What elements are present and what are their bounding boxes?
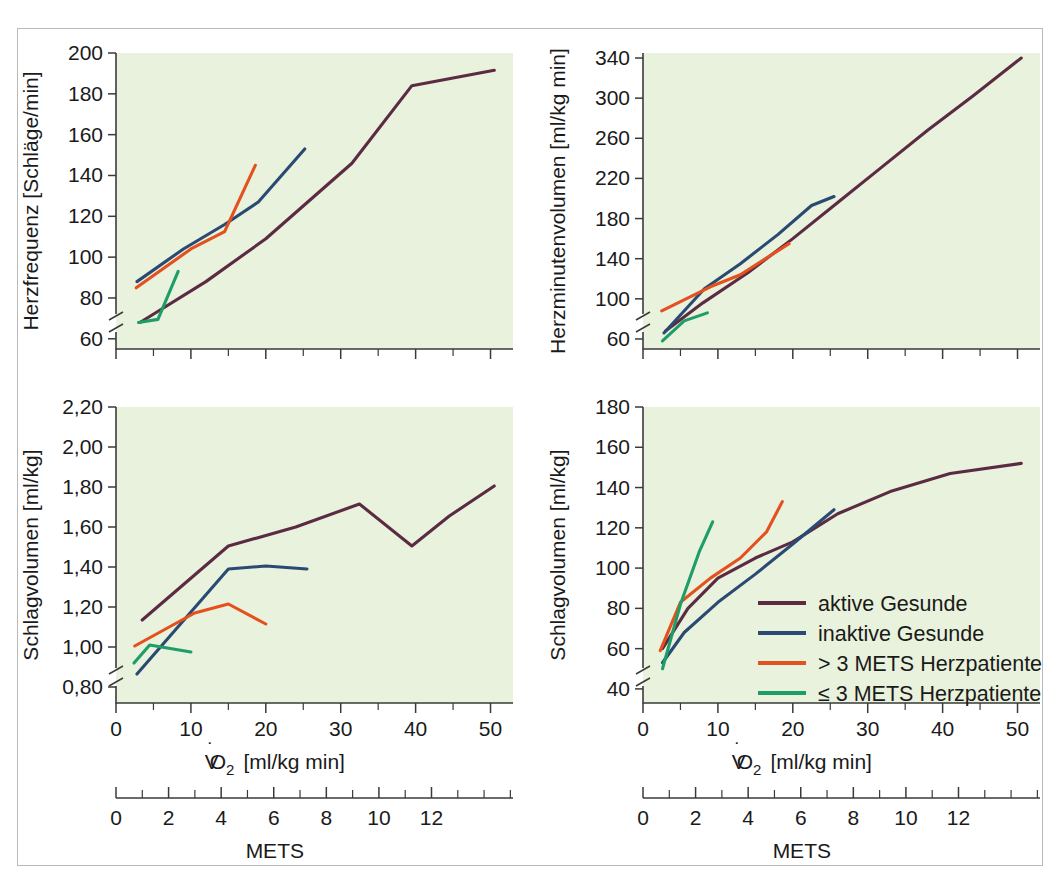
panel-top-right: 60100140180220260300340Herzminutenvolume…: [546, 46, 1040, 359]
y-tick-label: 300: [595, 86, 630, 109]
x-axis-group: 01020304050V̇O2[ml/kg min]024681012METS: [110, 717, 513, 862]
x-tick-label: 10: [706, 717, 729, 740]
legend-label: ≤ 3 METS Herzpatienten: [818, 682, 1042, 706]
y-tick-label: 1,40: [62, 555, 103, 578]
mets-axis-title: METS: [773, 839, 831, 862]
y-tick-label: 180: [595, 207, 630, 230]
y-tick-label: 1,20: [62, 595, 103, 618]
mets-tick-label: 2: [163, 806, 175, 829]
panel-top-left: 6080100120140160180200Herzfrequenz [Schl…: [19, 41, 513, 359]
y-tick-label: 80: [80, 286, 103, 309]
plot-background: [116, 407, 513, 703]
mets-tick-label: 10: [367, 806, 390, 829]
y-tick-label: 60: [80, 327, 103, 350]
y-tick-label: 140: [595, 476, 630, 499]
x-tick-label: 30: [856, 717, 879, 740]
y-tick-label: 1,00: [62, 635, 103, 658]
x-tick-label: 30: [329, 717, 352, 740]
x-tick-label: 40: [931, 717, 954, 740]
mets-tick-label: 6: [795, 806, 807, 829]
y-tick-label: 120: [595, 516, 630, 539]
y-tick-label: 220: [595, 166, 630, 189]
y-tick-label: 180: [595, 395, 630, 418]
y-tick-label: 1,80: [62, 475, 103, 498]
y-tick-label: 2,00: [62, 435, 103, 458]
figure-frame: 6080100120140160180200Herzfrequenz [Schl…: [17, 28, 1043, 866]
x-axis-title: V̇O2[ml/kg min]: [205, 742, 345, 778]
legend-label: aktive Gesunde: [818, 592, 967, 616]
mets-tick-label: 6: [268, 806, 280, 829]
mets-tick-label: 8: [320, 806, 332, 829]
x-tick-label: 50: [479, 717, 502, 740]
mets-tick-label: 2: [690, 806, 702, 829]
mets-tick-label: 8: [847, 806, 859, 829]
legend-label: inaktive Gesunde: [818, 622, 984, 646]
y-tick-label: 100: [595, 556, 630, 579]
mets-tick-label: 4: [742, 806, 754, 829]
y-tick-label: 40: [607, 677, 630, 700]
y-tick-label: 160: [68, 123, 103, 146]
y-tick-label: 120: [68, 204, 103, 227]
y-tick-label: 340: [595, 46, 630, 69]
x-tick-label: 10: [179, 717, 202, 740]
mets-tick-label: 12: [420, 806, 443, 829]
x-axis-group: 01020304050V̇O2[ml/kg min]024681012METS: [637, 717, 1040, 862]
x-tick-label: 0: [637, 717, 649, 740]
y-axis-title: Herzminutenvolumen [ml/kg min]: [546, 48, 569, 354]
y-tick-label: 180: [68, 82, 103, 105]
x-tick-label: 40: [404, 717, 427, 740]
plot-background: [116, 53, 513, 349]
y-tick-label: 260: [595, 126, 630, 149]
y-tick-label: 140: [68, 163, 103, 186]
x-tick-label: 50: [1006, 717, 1029, 740]
x-tick-label: 0: [110, 717, 122, 740]
y-tick-label: 2,20: [62, 395, 103, 418]
panel-bottom-left: 0,801,001,201,401,601,802,002,20Schlagvo…: [19, 395, 513, 713]
legend-label: > 3 METS Herzpatienten: [818, 652, 1042, 676]
mets-tick-label: 4: [215, 806, 227, 829]
x-tick-label: 20: [781, 717, 804, 740]
mets-axis-title: METS: [246, 839, 304, 862]
x-axis-title: V̇O2[ml/kg min]: [732, 742, 872, 778]
y-tick-label: 140: [595, 247, 630, 270]
physiology-figure: 6080100120140160180200Herzfrequenz [Schl…: [18, 29, 1042, 865]
y-tick-label: 80: [607, 596, 630, 619]
y-tick-label: 100: [595, 287, 630, 310]
y-tick-label: 100: [68, 245, 103, 268]
mets-tick-label: 12: [947, 806, 970, 829]
mets-tick-label: 10: [894, 806, 917, 829]
y-tick-label: 0,80: [62, 675, 103, 698]
mets-tick-label: 0: [110, 806, 122, 829]
y-axis-title: Schlagvolumen [ml/kg]: [546, 449, 569, 660]
y-tick-label: 1,60: [62, 515, 103, 538]
x-tick-label: 20: [254, 717, 277, 740]
y-axis-title: Herzfrequenz [Schläge/min]: [19, 71, 42, 330]
y-tick-label: 60: [607, 637, 630, 660]
y-tick-label: 60: [607, 327, 630, 350]
y-tick-label: 160: [595, 435, 630, 458]
y-tick-label: 200: [68, 41, 103, 64]
y-axis-title: Schlagvolumen [ml/kg]: [19, 449, 42, 660]
mets-tick-label: 0: [637, 806, 649, 829]
